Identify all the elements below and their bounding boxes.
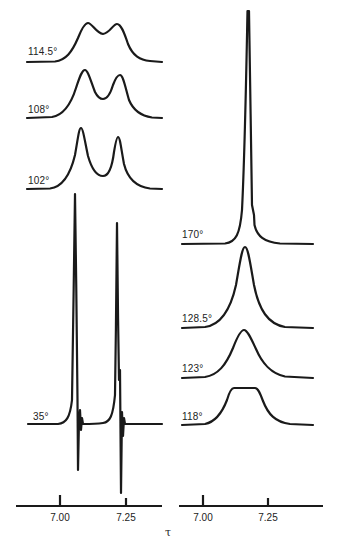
- right-tick-label-7-25: 7.25: [258, 512, 277, 523]
- temp-label-108: 108°: [28, 104, 49, 115]
- right-panel: [179, 11, 323, 506]
- left-tick-label-7-25: 7.25: [116, 512, 135, 523]
- left-panel: [16, 23, 162, 506]
- spectrum-35: [28, 194, 162, 493]
- left-tick-label-7-00: 7.00: [50, 512, 69, 523]
- temp-label-118: 118°: [182, 411, 203, 422]
- temp-label-170: 170°: [182, 229, 203, 240]
- temp-label-114-5: 114.5°: [28, 46, 57, 57]
- spectrum-170: [182, 11, 313, 244]
- x-axis-title-tau: τ: [165, 526, 171, 539]
- temp-label-35: 35°: [33, 411, 49, 422]
- temp-label-128-5: 128.5°: [182, 313, 212, 324]
- nmr-spectra-figure: [0, 0, 341, 547]
- temp-label-102: 102°: [28, 175, 49, 186]
- temp-label-123: 123°: [182, 363, 203, 374]
- right-tick-label-7-00: 7.00: [193, 512, 212, 523]
